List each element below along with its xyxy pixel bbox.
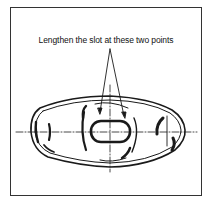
slotted-plate-drawing — [0, 0, 212, 204]
leader-lines — [98, 49, 126, 118]
center-lines — [16, 85, 197, 172]
right-lobe-detail — [157, 116, 174, 150]
left-lobe-detail — [36, 122, 54, 152]
plate-outline — [31, 96, 185, 167]
